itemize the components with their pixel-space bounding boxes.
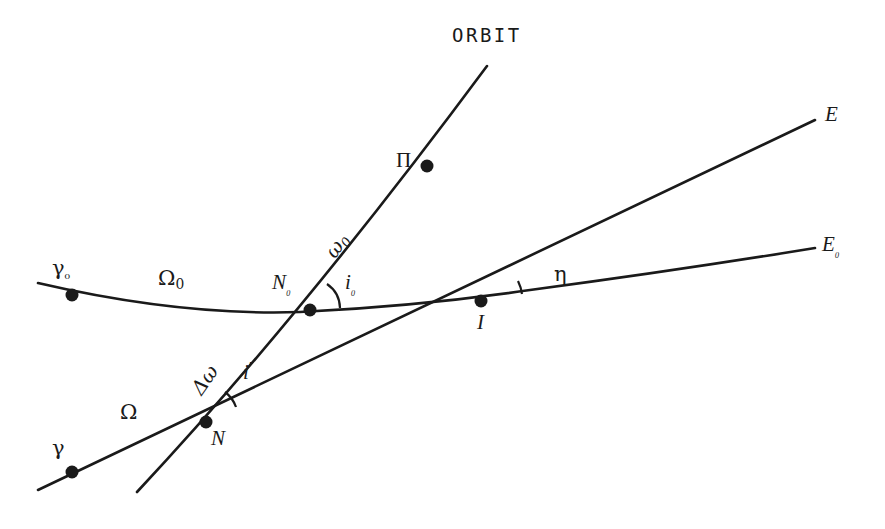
intersection-label: I (477, 312, 484, 333)
node-zero-symbol: N (272, 270, 286, 294)
point-markers (66, 160, 488, 479)
inclination-zero-subscript: ₀ (351, 281, 356, 296)
gamma-point (66, 466, 79, 479)
orbit-line (137, 66, 487, 492)
gamma-label: γ (52, 438, 65, 459)
inclination-zero-arc (327, 284, 340, 308)
node-zero-point (304, 304, 317, 317)
raan-zero-subscript: 0 (175, 276, 184, 292)
orbital-elements-diagram: ORBIT Π ω0 N₀ i₀ I η E E₀ γ₀ Ω0 γ Ω Δω i… (0, 0, 885, 529)
equator-new-label: E (825, 104, 838, 125)
node-label: N (211, 428, 225, 449)
orbit-label: ORBIT (452, 26, 522, 45)
gamma-zero-label: γ₀ (52, 258, 70, 282)
equator-zero-subscript: ₀ (835, 243, 840, 258)
node-zero-label: N₀ (272, 272, 291, 296)
gamma-zero-subscript: ₀ (65, 266, 71, 282)
eta-label: η (554, 264, 567, 285)
gamma-zero-symbol: γ (52, 256, 65, 280)
gamma-zero-point (66, 289, 79, 302)
equator-zero-label: E₀ (822, 234, 840, 258)
diagram-canvas (0, 0, 885, 529)
perigee-point (421, 160, 434, 173)
inclination-label: i′ (243, 360, 252, 383)
equator-zero-symbol: E (822, 232, 835, 256)
equator-zero-curve (38, 248, 815, 312)
inclination-zero-label: i₀ (345, 272, 356, 296)
intersection-point (475, 295, 488, 308)
perigee-label: Π (396, 150, 411, 171)
raan-zero-symbol: Ω (158, 266, 175, 290)
node-zero-subscript: ₀ (286, 281, 291, 296)
raan-label: Ω (120, 402, 137, 423)
prime-symbol: ′ (248, 358, 252, 377)
raan-zero-label: Ω0 (158, 268, 184, 292)
